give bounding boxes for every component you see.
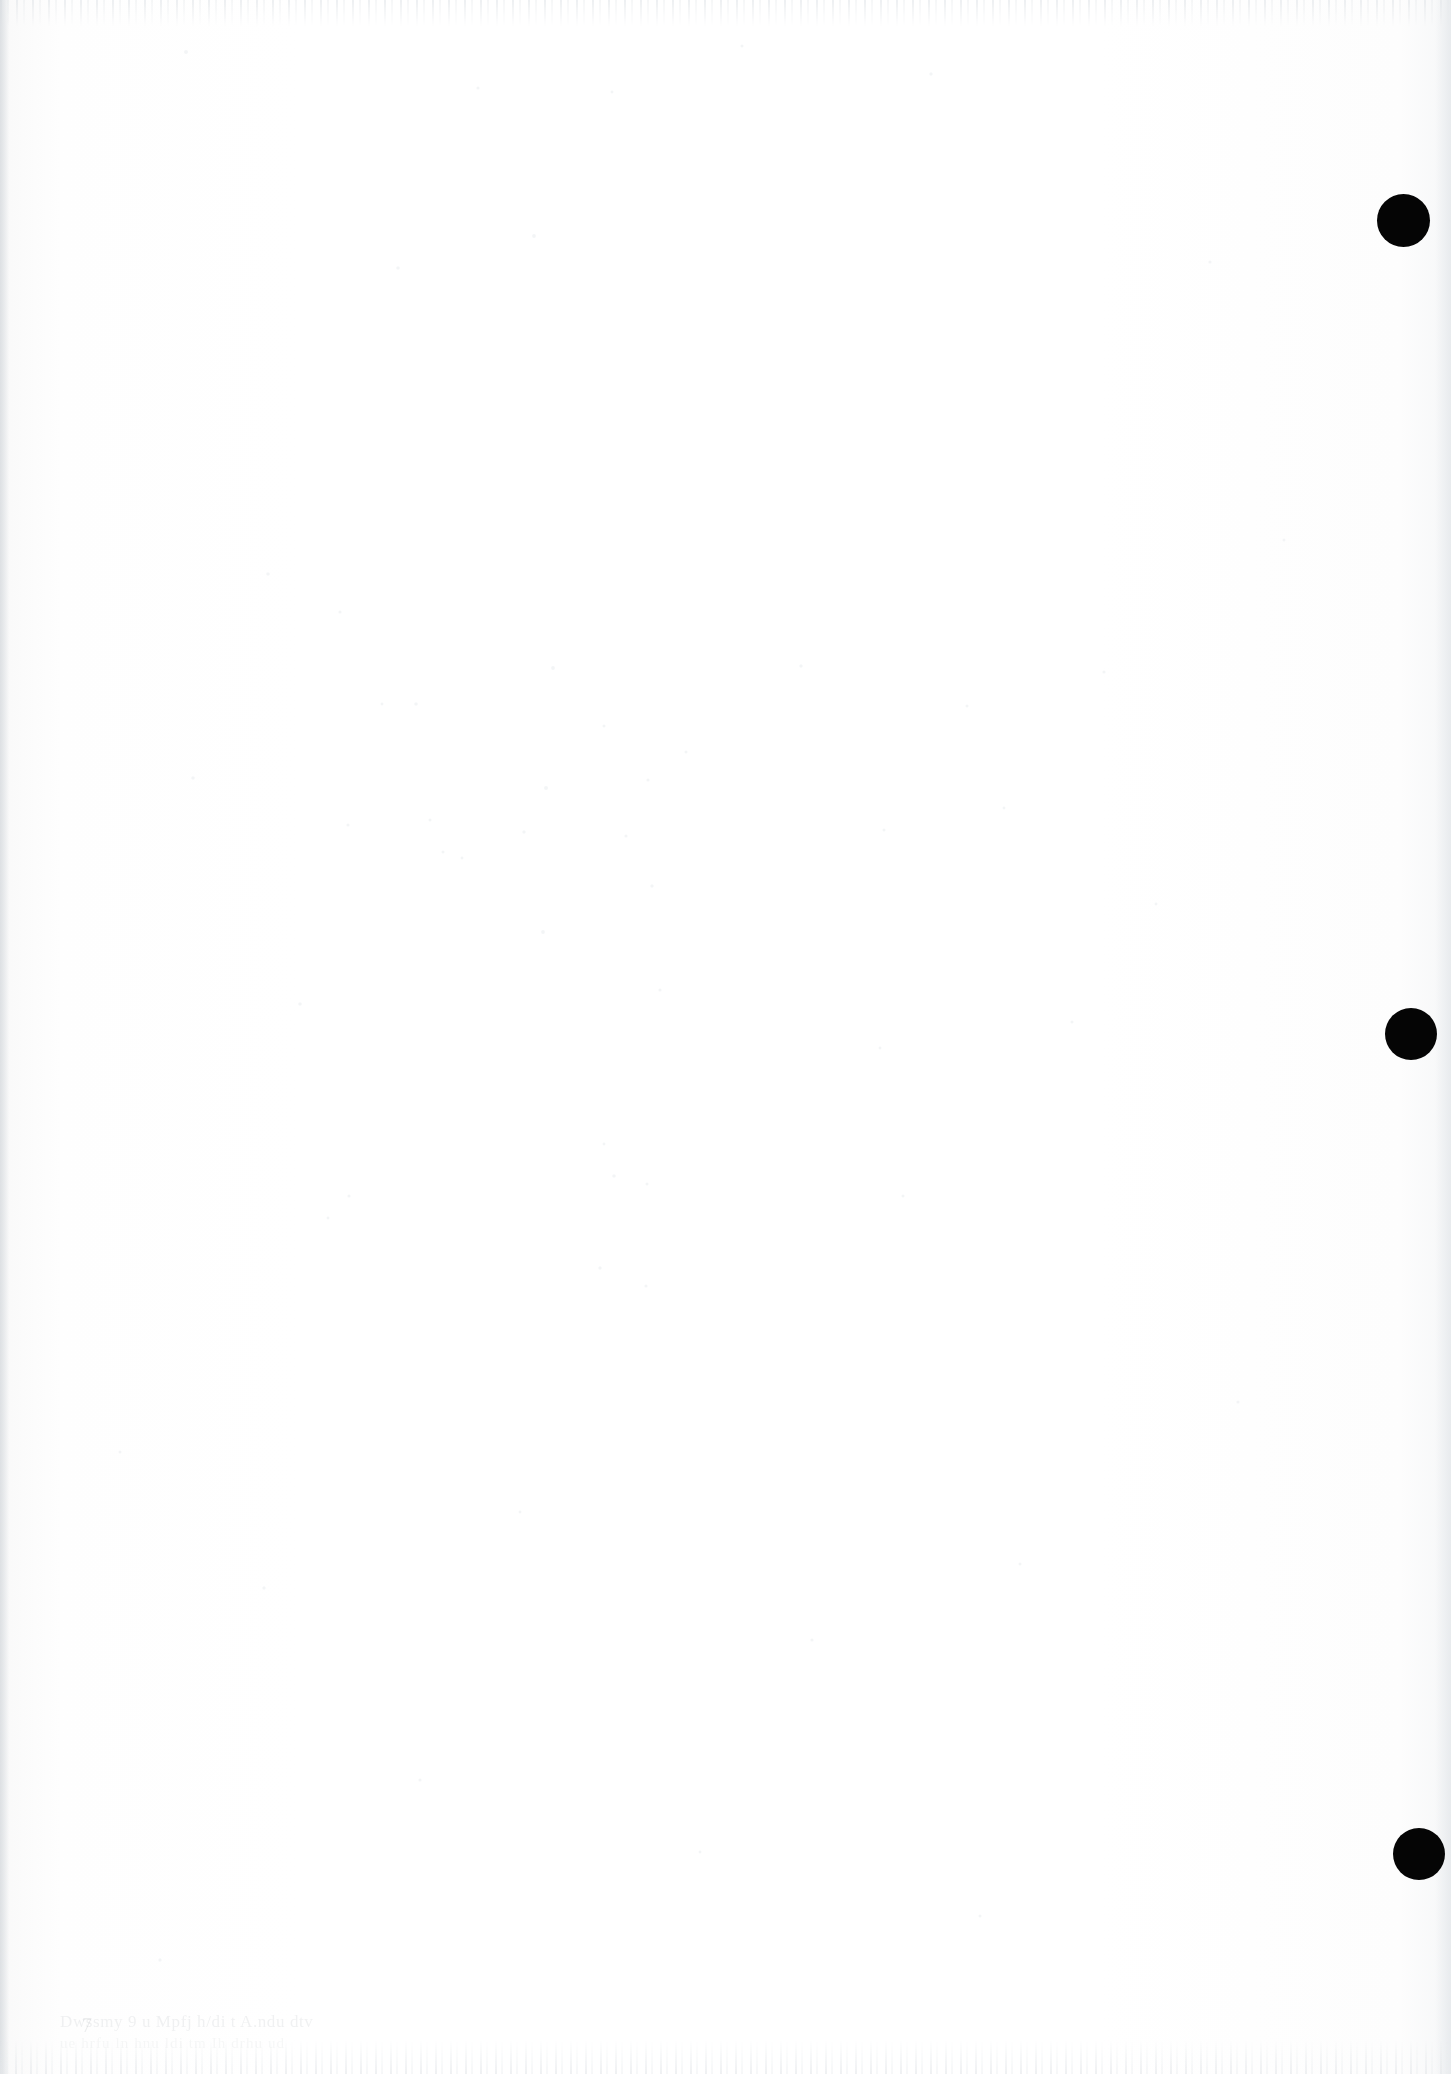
registration-dot-3 <box>1393 1828 1445 1880</box>
registration-dot-1 <box>1377 194 1430 247</box>
scanned-page: 7 Dwssmy 9 u Mpfj h/di t A.ndu dtv ue hr… <box>0 0 1451 2074</box>
paper-background <box>0 0 1451 2074</box>
registration-dot-2 <box>1385 1008 1437 1060</box>
